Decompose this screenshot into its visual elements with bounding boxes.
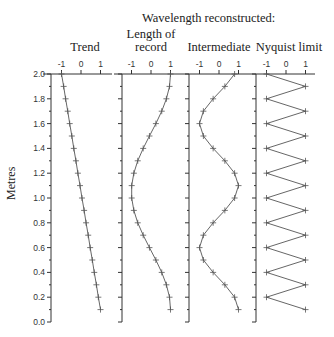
x-tick-label: 0: [79, 59, 84, 69]
x-tick-label: -1: [128, 59, 136, 69]
x-tick-label: 0: [217, 59, 222, 69]
y-tick-label: 0.0: [33, 317, 45, 327]
y-tick-label: 1.8: [33, 94, 45, 104]
series-line: [132, 74, 171, 310]
x-tick-label: 0: [284, 59, 289, 69]
x-tick-label: 0: [149, 59, 154, 69]
chart-plot-area: 0.00.20.40.60.81.01.21.41.61.82.0-101-10…: [0, 0, 334, 337]
y-tick-label: 1.0: [33, 193, 45, 203]
y-tick-label: 0.4: [33, 267, 45, 277]
x-tick-label: -1: [196, 59, 204, 69]
series-line: [267, 74, 306, 310]
x-tick-label: -1: [263, 59, 271, 69]
x-tick-label: 1: [98, 59, 103, 69]
x-tick-label: 1: [303, 59, 308, 69]
x-tick-label: -1: [58, 59, 66, 69]
x-tick-label: 1: [236, 59, 241, 69]
y-tick-label: 0.2: [33, 292, 45, 302]
y-tick-label: 0.8: [33, 218, 45, 228]
y-tick-label: 1.4: [33, 143, 45, 153]
series-line: [200, 74, 239, 310]
y-tick-label: 1.6: [33, 119, 45, 129]
x-tick-label: 1: [168, 59, 173, 69]
y-tick-label: 1.2: [33, 168, 45, 178]
y-tick-label: 0.6: [33, 243, 45, 253]
